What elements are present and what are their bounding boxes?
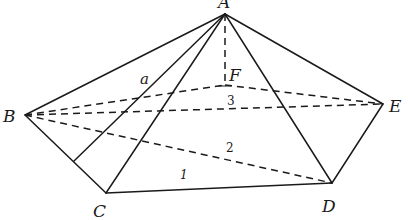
edge-BD: [25, 115, 332, 183]
edge-DE: [332, 104, 383, 183]
label-B: B: [2, 106, 16, 126]
label-1: 1: [180, 168, 188, 182]
label-a: a: [140, 70, 149, 88]
edge-A-foot-BC: [74, 14, 225, 161]
label-A: A: [216, 0, 230, 12]
edge-AE: [225, 14, 383, 104]
edge-BC: [25, 115, 106, 193]
edge-FE: [225, 85, 383, 104]
edge-AC: [106, 14, 225, 193]
edge-CD: [106, 183, 332, 193]
edge-BE: [25, 104, 383, 115]
label-D: D: [321, 196, 336, 216]
label-F: F: [228, 65, 242, 85]
label-E: E: [388, 96, 402, 116]
pyramid-diagram: A B C D E F a 1 2 3: [0, 0, 408, 220]
label-C: C: [93, 201, 106, 220]
edge-AD: [225, 14, 332, 183]
label-2: 2: [226, 141, 234, 155]
label-3: 3: [227, 94, 235, 108]
